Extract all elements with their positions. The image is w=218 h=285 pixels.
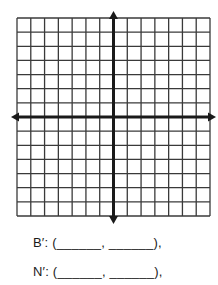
arrow-up-icon: [109, 11, 118, 19]
arrow-right-icon: [208, 113, 216, 122]
axes: [11, 11, 216, 224]
arrow-down-icon: [109, 216, 118, 224]
coordinate-plane: [0, 0, 218, 232]
answer-b-prime[interactable]: B′: (______, ______),: [33, 235, 162, 250]
answer-n-prime[interactable]: N′: (______, ______),: [33, 264, 163, 279]
arrow-left-icon: [11, 113, 19, 122]
